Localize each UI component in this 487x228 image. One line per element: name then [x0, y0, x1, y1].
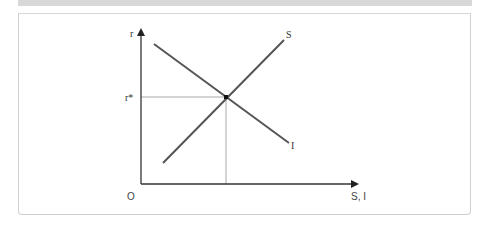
y-axis-label: r [130, 28, 134, 39]
r-star-label: r* [125, 92, 133, 103]
sav-inv-diagram: r r* O S, I S I [0, 0, 487, 228]
origin-label: O [127, 191, 135, 202]
saving-curve [163, 40, 284, 163]
investment-curve-label: I [291, 140, 294, 151]
investment-curve [154, 44, 289, 143]
saving-curve-label: S [286, 29, 292, 40]
equilibrium-point [224, 95, 228, 99]
x-axis-label: S, I [351, 191, 366, 202]
